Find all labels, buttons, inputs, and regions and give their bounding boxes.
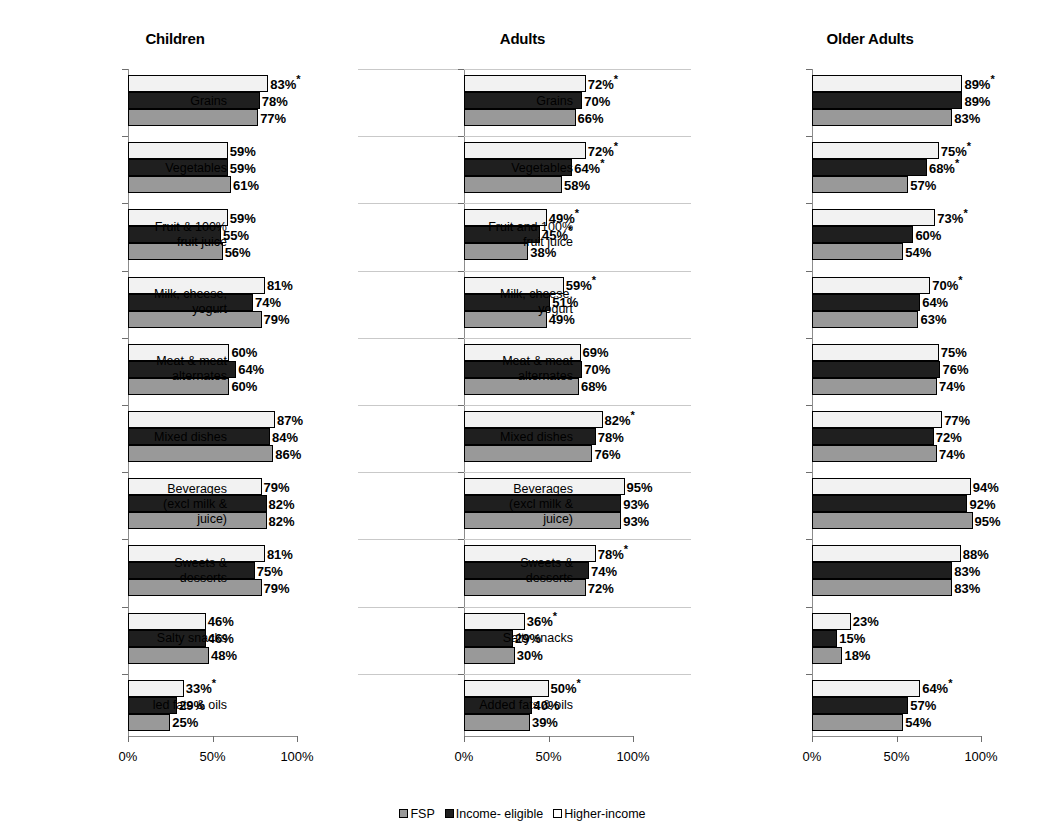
category-axis-tick	[806, 203, 812, 204]
bar-row-income-eligible: 72%	[812, 428, 1045, 445]
bar-row-higher-income: 70%*	[812, 277, 1045, 294]
x-axis-tick-label: 50%	[867, 749, 927, 764]
bar-income-eligible	[812, 361, 940, 378]
bar-value-label: 78%	[596, 429, 624, 444]
category-axis-tick	[458, 69, 464, 70]
bar-row-higher-income: 23%	[812, 613, 1045, 630]
bar-row-higher-income: 75%	[812, 344, 1045, 361]
bar-value-label: 81%	[265, 546, 293, 561]
category-group: Meat & meatalternates	[695, 344, 812, 395]
category-group: Mixed dishes	[350, 411, 464, 462]
bar-value-label: 18%	[842, 648, 870, 663]
bar-value-label: 46%	[206, 614, 234, 629]
bar-value-label: 82%	[267, 496, 295, 511]
bar-value-label: 81%	[265, 278, 293, 293]
category-axis-tick	[806, 136, 812, 137]
category-group: Milk, cheese,yogurt	[0, 277, 128, 328]
bar-higher-income	[812, 613, 851, 630]
bar-value-label: 15%	[837, 631, 865, 646]
bar-higher-income	[812, 411, 942, 428]
category-axis-tick	[458, 607, 464, 608]
bar-value-label: 72%	[586, 580, 614, 595]
category-label: Vegetables	[165, 160, 227, 175]
bar-value-label: 83%*	[268, 76, 300, 91]
bar-value-label: 93%	[621, 496, 649, 511]
legend-item-higher: Higher-income	[553, 806, 645, 821]
x-axis-tick-label: 100%	[951, 749, 1011, 764]
bar-fsp	[128, 445, 273, 462]
category-axis-tick	[122, 674, 128, 675]
bar-fsp	[464, 109, 576, 126]
bar-higher-income	[812, 478, 971, 495]
bar-row-higher-income: 64%*	[812, 680, 1045, 697]
category-label: Salty snacks	[157, 631, 227, 646]
legend-label: FSP	[410, 807, 434, 821]
x-axis-tick-label: 0%	[782, 749, 842, 764]
bar-higher-income	[128, 142, 228, 159]
category-axis-tick	[806, 405, 812, 406]
bar-value-label: 54%	[903, 715, 931, 730]
category-axis-tick	[122, 69, 128, 70]
category-group: Sweets &desserts	[0, 545, 128, 596]
bar-value-label: 70%	[582, 93, 610, 108]
x-axis-tick	[897, 736, 898, 742]
bar-value-label: 59%	[228, 143, 256, 158]
bar-row-fsp: 95%	[812, 512, 1045, 529]
legend-swatch-eligible	[445, 809, 454, 818]
x-axis-tick-label: 100%	[267, 749, 327, 764]
category-label: Meat & meatalternates	[502, 354, 573, 384]
bar-income-eligible	[812, 697, 908, 714]
category-axis-tick	[806, 539, 812, 540]
category-label: Milk, cheese,yogurt	[500, 287, 573, 317]
category-axis-tick	[458, 405, 464, 406]
legend-swatch-higher	[553, 809, 562, 818]
bar-row-income-eligible: 89%	[812, 92, 1045, 109]
category-axis-tick	[122, 472, 128, 473]
bar-fsp	[128, 176, 231, 193]
legend-label: Income- eligible	[456, 807, 544, 821]
bar-value-label: 83%	[952, 580, 980, 595]
category-group: Milk, cheese,yogurt	[695, 277, 812, 328]
bar-higher-income	[464, 411, 603, 428]
bar-row-higher-income: 89%*	[812, 75, 1045, 92]
bar-value-label: 33%*	[184, 681, 216, 696]
bar-value-label: 77%	[258, 110, 286, 125]
category-group: Grains	[350, 75, 464, 126]
x-axis-tick	[297, 736, 298, 742]
bar-income-eligible	[812, 226, 913, 243]
bar-value-label: 64%	[236, 362, 264, 377]
bar-fsp	[812, 311, 918, 328]
bar-higher-income	[812, 680, 920, 697]
bar-value-label: 54%	[903, 244, 931, 259]
x-axis-tick	[464, 736, 465, 742]
bar-fsp	[128, 109, 258, 126]
category-group: Added fats & oils	[0, 680, 128, 731]
category-group: Grains	[695, 75, 812, 126]
legend-swatch-fsp	[399, 809, 408, 818]
bar-row-fsp: 57%	[812, 176, 1045, 193]
category-axis-tick	[806, 69, 812, 70]
bar-higher-income	[464, 613, 525, 630]
bar-higher-income	[464, 680, 549, 697]
bar-fsp	[812, 512, 973, 529]
bar-value-label: 95%	[973, 513, 1001, 528]
bar-fsp	[812, 243, 903, 260]
category-axis-tick	[122, 607, 128, 608]
bar-fsp	[464, 714, 530, 731]
bar-row-income-eligible: 83%	[812, 562, 1045, 579]
bar-row-income-eligible: 57%	[812, 697, 1045, 714]
category-axis-tick	[806, 674, 812, 675]
x-axis-tick	[549, 736, 550, 742]
bar-value-label: 70%*	[930, 278, 962, 293]
category-label: Grains	[536, 93, 573, 108]
bar-higher-income	[812, 545, 961, 562]
category-group: Sweets &desserts	[695, 545, 812, 596]
bar-fsp	[812, 579, 952, 596]
legend-item-fsp: FSP	[399, 806, 434, 821]
category-group: Vegetables	[695, 142, 812, 193]
category-group: Fruit & 100%fruit juice	[350, 209, 464, 260]
category-separator	[358, 674, 691, 675]
bar-value-label: 78%	[260, 93, 288, 108]
bar-value-label: 79%	[262, 580, 290, 595]
x-axis-tick	[633, 736, 634, 742]
